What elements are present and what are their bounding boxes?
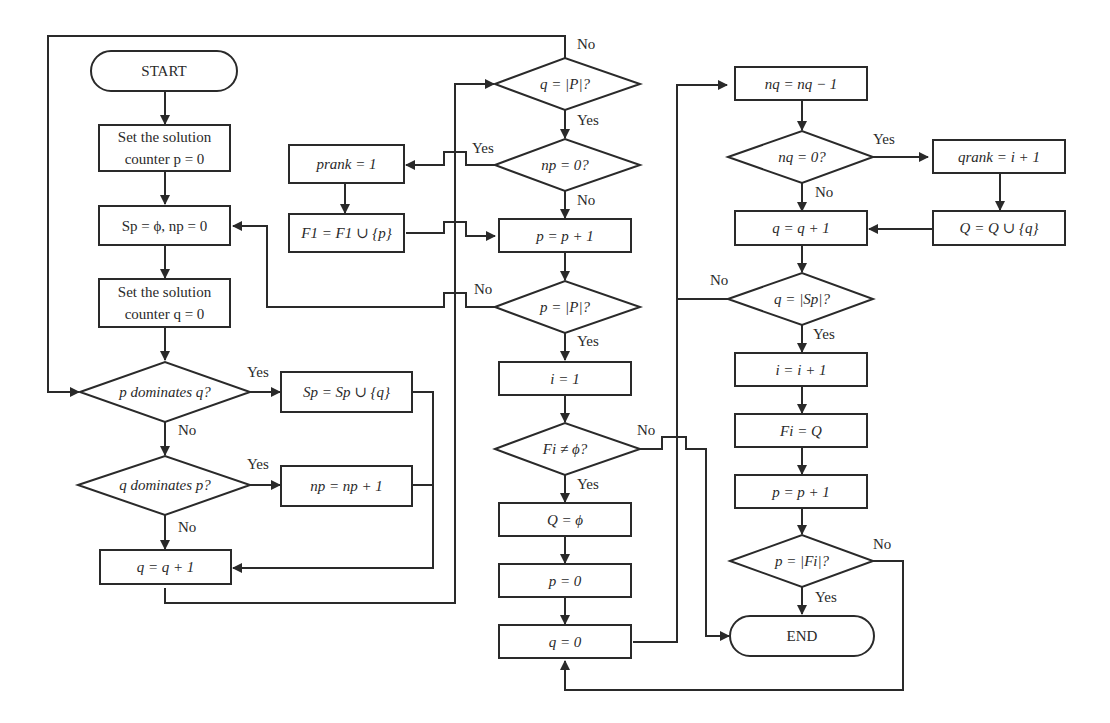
sp-union-box: Sp = Sp ∪ {q} bbox=[280, 371, 413, 413]
edge-label-yes: Yes bbox=[577, 112, 599, 129]
edge-label-yes: Yes bbox=[247, 456, 269, 473]
p-eq-Fi-label: p = |Fi|? bbox=[757, 549, 847, 573]
np-zero-label: np = 0? bbox=[520, 153, 610, 177]
q-increment-right-box: q = q + 1 bbox=[734, 210, 868, 246]
edge-label-yes: Yes bbox=[577, 476, 599, 493]
p-eq-P-label: p = |P|? bbox=[520, 295, 610, 319]
edge-label-no: No bbox=[474, 281, 492, 298]
i-increment-box: i = i + 1 bbox=[734, 352, 868, 387]
fi-nonempty-label: Fi ≠ ϕ? bbox=[520, 437, 610, 461]
edge-label-no: No bbox=[710, 272, 728, 289]
edge-label-yes: Yes bbox=[815, 589, 837, 606]
q-union-box: Q = Q ∪ {q} bbox=[932, 210, 1066, 246]
init-sp-np-box: Sp = ϕ, np = 0 bbox=[98, 205, 231, 246]
edge-label-no: No bbox=[637, 422, 655, 439]
q-zero-box: q = 0 bbox=[498, 624, 632, 659]
nq-zero-label: nq = 0? bbox=[757, 145, 847, 169]
p-increment-right-box: p = p + 1 bbox=[734, 474, 868, 509]
p-zero-box: p = 0 bbox=[498, 563, 632, 598]
q-empty-box: Q = ϕ bbox=[498, 502, 632, 537]
i-one-box: i = 1 bbox=[498, 361, 632, 396]
set-q-counter-box: Set the solution counter q = 0 bbox=[98, 278, 231, 328]
qrank-box: qrank = i + 1 bbox=[932, 139, 1066, 174]
edge-label-no: No bbox=[178, 519, 196, 536]
start-terminator: START bbox=[90, 50, 238, 92]
edge-label-yes: Yes bbox=[472, 140, 494, 157]
f1-union-box: F1 = F1 ∪ {p} bbox=[288, 213, 405, 253]
edge-label-yes: Yes bbox=[247, 364, 269, 381]
edge-label-yes: Yes bbox=[577, 333, 599, 350]
np-increment-box: np = np + 1 bbox=[280, 465, 413, 507]
q-eq-P-label: q = |P|? bbox=[520, 72, 610, 96]
nq-decrement-box: nq = nq − 1 bbox=[734, 66, 868, 101]
end-terminator: END bbox=[729, 615, 875, 657]
edge-label-no: No bbox=[577, 36, 595, 53]
q-dominates-p-label: q dominates p? bbox=[95, 473, 235, 497]
edge-label-no: No bbox=[577, 192, 595, 209]
q-eq-Sp-label: q = |Sp|? bbox=[757, 287, 847, 311]
set-p-counter-box: Set the solution counter p = 0 bbox=[98, 124, 231, 172]
edge-label-no: No bbox=[815, 184, 833, 201]
q-increment-left-box: q = q + 1 bbox=[99, 549, 232, 585]
edge-label-yes: Yes bbox=[873, 131, 895, 148]
p-dominates-q-label: p dominates q? bbox=[95, 380, 235, 404]
fi-eq-q-box: Fi = Q bbox=[734, 413, 868, 448]
p-increment-mid-box: p = p + 1 bbox=[498, 218, 632, 253]
edge-label-yes: Yes bbox=[813, 326, 835, 343]
edge-label-no: No bbox=[873, 536, 891, 553]
edge-label-no: No bbox=[178, 422, 196, 439]
prank-box: prank = 1 bbox=[288, 144, 405, 184]
